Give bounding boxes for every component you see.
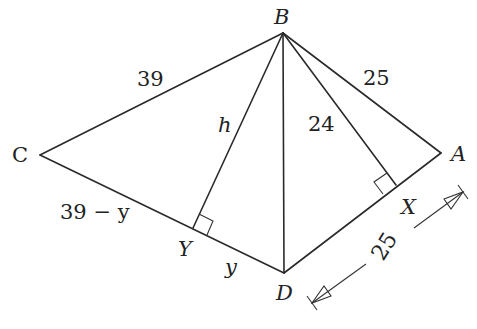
altitude-BY bbox=[193, 33, 283, 228]
edge-DA bbox=[284, 153, 441, 273]
vertex-label-B: B bbox=[273, 5, 289, 29]
vertex-label-X: X bbox=[399, 195, 417, 219]
diagonal-BD bbox=[283, 33, 284, 273]
length-label-BA: 25 bbox=[363, 66, 390, 90]
right-angle-mark-Y bbox=[199, 214, 213, 235]
vertex-label-Y: Y bbox=[178, 237, 194, 261]
length-label-BY: h bbox=[218, 113, 232, 137]
length-label-BX: 24 bbox=[308, 112, 335, 136]
vertex-label-D: D bbox=[275, 281, 293, 305]
altitude-BX bbox=[283, 33, 396, 185]
length-label-CY: 39 − y bbox=[60, 200, 130, 224]
right-angle-mark-X bbox=[374, 173, 387, 194]
geometry-figure: B A C D X Y 39 25 24 h 39 − y y 25 bbox=[0, 0, 477, 329]
length-label-BC: 39 bbox=[137, 67, 164, 91]
edge-AB bbox=[283, 33, 441, 153]
vertex-label-C: C bbox=[12, 143, 28, 167]
vertex-label-A: A bbox=[449, 142, 466, 166]
edge-BC bbox=[40, 33, 283, 155]
length-label-YD: y bbox=[224, 255, 238, 279]
length-label-DA: 25 bbox=[366, 228, 402, 265]
